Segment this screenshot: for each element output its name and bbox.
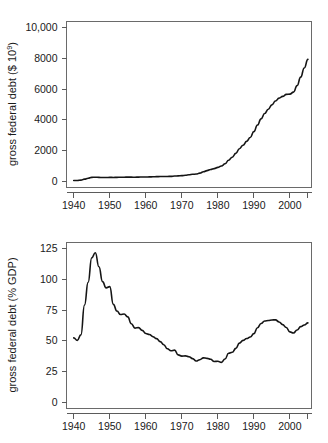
x-tick-label: 1940: [62, 420, 86, 432]
chart-bottom-svg: 0255075100125 19401950196019701980199020…: [0, 221, 328, 443]
x-axis-ticks-top: 1940195019601970198019902000: [62, 193, 308, 211]
y-tick-label: 4000: [34, 113, 58, 125]
y-axis-ticks-bottom: 0255075100125: [40, 242, 67, 408]
x-tick-label: 1940: [62, 199, 86, 211]
y-tick-label: 10,000: [25, 21, 57, 33]
x-tick-label: 1950: [98, 420, 122, 432]
x-tick-label: 2000: [278, 420, 302, 432]
y-tick-label: 6000: [34, 83, 58, 95]
y-tick-label: 125: [40, 242, 58, 254]
y-tick-label: 0: [52, 396, 58, 408]
y-tick-label: 2000: [34, 144, 58, 156]
y-tick-label: 8000: [34, 52, 58, 64]
x-tick-label: 1980: [206, 420, 230, 432]
y-axis-ticks-top: 0200040006000800010,000: [25, 21, 66, 187]
data-series-line-bottom: [74, 253, 308, 363]
x-tick-label: 1970: [170, 420, 194, 432]
y-axis-title-bottom: gross federal debt (% GDP): [6, 257, 18, 392]
x-tick-label: 1960: [134, 420, 158, 432]
chart-top-svg: 0200040006000800010,000 1940195019601970…: [0, 0, 328, 222]
y-axis-title-top: gross federal debt ($ 109): [5, 42, 18, 166]
x-tick-label: 1950: [98, 199, 122, 211]
x-tick-label: 2000: [278, 199, 302, 211]
chart-gross-federal-debt-dollars: 0200040006000800010,000 1940195019601970…: [0, 0, 328, 222]
x-axis-ticks-bottom: 1940195019601970198019902000: [62, 414, 308, 432]
x-tick-label: 1980: [206, 199, 230, 211]
x-tick-label: 1990: [242, 420, 266, 432]
plot-frame-top: [67, 22, 312, 188]
x-tick-label: 1960: [134, 199, 158, 211]
y-tick-label: 75: [46, 304, 58, 316]
y-tick-label: 100: [40, 273, 58, 285]
y-tick-label: 50: [46, 334, 58, 346]
data-series-line-top: [74, 59, 308, 180]
chart-gross-federal-debt-pct-gdp: 0255075100125 19401950196019701980199020…: [0, 221, 328, 443]
x-tick-label: 1970: [170, 199, 194, 211]
y-tick-label: 25: [46, 365, 58, 377]
x-tick-label: 1990: [242, 199, 266, 211]
plot-frame-bottom: [67, 243, 312, 409]
y-tick-label: 0: [52, 175, 58, 187]
